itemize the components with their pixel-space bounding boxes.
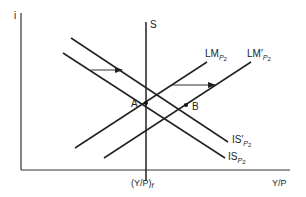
y-axis-label: i	[14, 10, 16, 21]
is-curve	[63, 53, 225, 158]
x-marker-label: (Y/P)f	[131, 178, 155, 189]
point-b-dot	[184, 103, 188, 107]
lm-prime-label: LM′P2	[247, 48, 271, 62]
point-a-dot	[144, 101, 148, 105]
point-b-label: B	[192, 101, 199, 112]
lm-prime-curve	[104, 62, 251, 158]
lm-label: LMP2	[205, 48, 228, 62]
is-prime-label: IS′P2	[232, 134, 252, 148]
s-label: S	[150, 19, 157, 30]
x-axis-label: Y/P	[272, 178, 287, 188]
is-lm-diagram: i S LMP2 LM′P2 IS′P2 ISP2 A B (Y/P)f Y/P	[0, 0, 306, 197]
is-label: ISP2	[228, 151, 246, 165]
point-a-label: A	[131, 98, 138, 109]
